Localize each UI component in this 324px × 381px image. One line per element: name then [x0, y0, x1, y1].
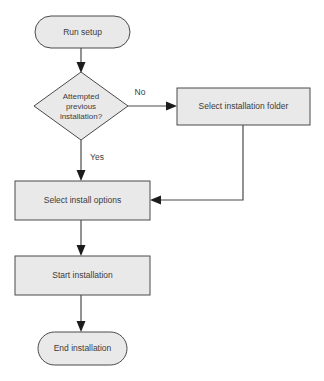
flowchart-canvas: Run setup Attempted previous installatio… — [0, 0, 324, 381]
edge-decision-to-select-folder — [128, 102, 177, 111]
node-decision-label-line1: Attempted — [63, 92, 99, 101]
arrowhead-icon — [166, 102, 177, 111]
edge-label-yes: Yes — [90, 152, 104, 162]
edge-decision-to-select-options — [77, 140, 86, 181]
node-end-installation-label: End installation — [54, 343, 112, 353]
edge-start-install-to-end — [77, 295, 86, 332]
node-select-installation-folder-label: Select installation folder — [199, 101, 289, 111]
node-decision-attempted-previous-installation[interactable]: Attempted previous installation? — [34, 72, 128, 140]
edge-select-folder-to-select-options — [150, 125, 243, 205]
node-run-setup-label: Run setup — [63, 27, 102, 37]
node-select-install-options-label: Select install options — [44, 195, 122, 205]
node-decision-label-line2: previous — [66, 102, 96, 111]
arrowhead-icon — [150, 196, 161, 205]
node-select-installation-folder[interactable]: Select installation folder — [177, 88, 310, 125]
arrowhead-icon — [77, 245, 86, 256]
node-decision-label-line3: installation? — [60, 112, 103, 121]
arrowhead-icon — [77, 170, 86, 181]
arrowhead-icon — [77, 321, 86, 332]
edge-select-options-to-start-install — [77, 220, 86, 256]
node-start-installation-label: Start installation — [52, 270, 113, 280]
edge-label-no: No — [135, 87, 146, 97]
node-run-setup[interactable]: Run setup — [35, 16, 130, 48]
flowchart-svg: Run setup Attempted previous installatio… — [0, 0, 324, 381]
edge-start-to-decision — [77, 48, 86, 73]
node-select-install-options[interactable]: Select install options — [15, 181, 150, 220]
node-end-installation[interactable]: End installation — [38, 332, 127, 365]
arrowhead-icon — [77, 62, 86, 73]
node-start-installation[interactable]: Start installation — [15, 256, 150, 295]
